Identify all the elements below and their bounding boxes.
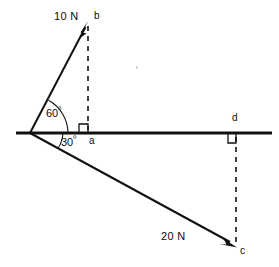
vector-10n-arrowhead	[80, 21, 89, 39]
label-point-d: d	[232, 113, 238, 123]
degree-symbol-30: º	[73, 134, 76, 143]
label-point-a: a	[89, 136, 95, 146]
page-speck	[136, 66, 138, 69]
angle-30-value: 30	[61, 136, 73, 148]
label-point-c: c	[240, 246, 245, 256]
vector-20n-shaft	[30, 133, 230, 242]
angle-60-value: 60	[46, 107, 58, 119]
force-diagram-svg	[0, 0, 279, 267]
label-angle-30: 30º	[61, 135, 76, 148]
label-point-b: b	[94, 11, 100, 21]
label-force-10n: 10 N	[54, 11, 78, 22]
label-force-20n: 20 N	[161, 231, 185, 242]
force-diagram-canvas: 10 N b 60º 30º a d 20 N c	[0, 0, 279, 267]
degree-symbol-60: º	[58, 105, 61, 114]
right-angle-marker-d	[228, 134, 236, 143]
vector-20n-arrowhead	[220, 239, 238, 248]
label-angle-60: 60º	[46, 106, 61, 119]
